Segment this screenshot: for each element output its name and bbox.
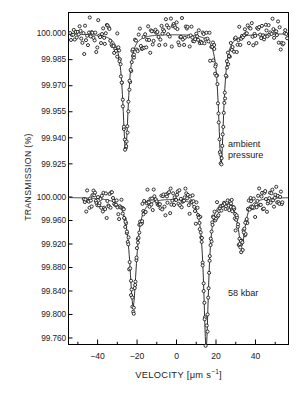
annotation-ambient-pressure: ambient pressure: [228, 139, 290, 161]
y-tick-label: 99.970: [4, 81, 66, 89]
y-tick-label: 99.840: [4, 287, 66, 295]
x-axis-title-suffix: ]: [219, 370, 222, 380]
fit-curve-58-kbar: [68, 198, 289, 345]
y-tick-label: 100.000: [4, 29, 66, 37]
y-axis-tick-labels: 100.00099.98599.97099.95599.94099.925100…: [0, 0, 66, 396]
x-tick-label: −20: [117, 352, 157, 361]
x-axis-title-prefix: VELOCITY [: [135, 370, 189, 380]
x-axis-title: VELOCITY [μm s−1]: [68, 368, 289, 380]
annotation-ambient-line1: ambient: [228, 139, 290, 150]
y-tick-label: 99.925: [4, 160, 66, 168]
y-tick-label: 100.000: [4, 193, 66, 201]
x-axis-title-exponent: −1: [211, 368, 219, 375]
y-tick-label: 99.985: [4, 55, 66, 63]
y-tick-label: 99.940: [4, 134, 66, 142]
y-axis-ticks: [68, 34, 73, 338]
y-tick-label: 99.760: [4, 334, 66, 342]
y-tick-label: 99.955: [4, 107, 66, 115]
y-tick-label: 99.920: [4, 240, 66, 248]
annotation-58-kbar: 58 kbar: [228, 288, 290, 299]
x-tick-label: 20: [196, 352, 236, 361]
data-points-58-kbar: [82, 185, 284, 347]
y-tick-label: 99.960: [4, 216, 66, 224]
mossbauer-spectrum-figure: 100.00099.98599.97099.95599.94099.925100…: [0, 0, 308, 396]
x-axis-title-unit: μm s: [190, 370, 212, 380]
x-tick-label: 0: [157, 352, 197, 361]
annotation-ambient-line2: pressure: [228, 150, 290, 161]
y-tick-label: 99.880: [4, 263, 66, 271]
y-axis-title: TRANSMISSION (%): [23, 102, 33, 252]
x-tick-label: −40: [78, 352, 118, 361]
x-tick-label: 40: [235, 352, 275, 361]
y-tick-label: 99.800: [4, 310, 66, 318]
